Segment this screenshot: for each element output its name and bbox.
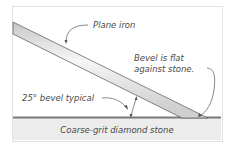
bevel-angle-label: 25° bevel typical — [22, 93, 95, 103]
bevel-angle-leader — [102, 98, 126, 107]
stone-label: Coarse-grit diamond stone — [60, 125, 173, 135]
plane-iron-leader — [66, 25, 88, 42]
bevel-flat-label-line2: against stone. — [134, 64, 194, 74]
arrow-icon — [135, 96, 138, 100]
plane-iron-label: Plane iron — [93, 20, 135, 30]
bevel-flat-label-line1: Bevel is flat — [134, 53, 185, 63]
sharpening-diagram: Plane iron Bevel is flat against stone. … — [0, 0, 232, 148]
angle-arc — [131, 99, 136, 116]
bevel-flat-leader — [201, 68, 215, 115]
arrow-icon — [65, 40, 68, 44]
